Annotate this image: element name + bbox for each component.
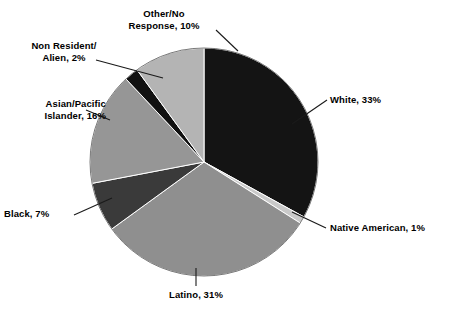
pie-label-white: White, 33% [330,94,440,106]
pie-label-non-resident-alien: Non Resident/ Alien, 2% [8,40,120,64]
pie-label-native-american: Native American, 1% [330,222,448,234]
pie-slice-group [90,48,318,276]
pie-chart-figure: Other/No Response, 10% Non Resident/ Ali… [0,0,450,316]
pie-label-latino: Latino, 31% [140,289,252,301]
pie-label-black: Black, 7% [4,208,92,220]
pie-label-other-no-response: Other/No Response, 10% [112,8,216,32]
pie-label-asian-pacific-islander: Asian/Pacific Islander, 16% [2,98,106,122]
leader-line-other [216,30,238,51]
